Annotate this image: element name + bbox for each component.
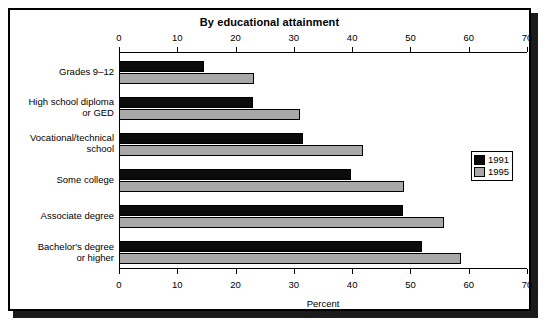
category-label: Vocational/technical school [14,132,114,154]
top-tick-label: 70 [522,32,533,43]
bar-1991-2 [119,133,303,144]
top-tick-label: 10 [172,32,183,43]
bar-1995-1 [119,109,300,120]
top-tick-mark [236,47,237,52]
top-tick-mark [469,47,470,52]
plot-area: 010203040506070 010203040506070 Grades 9… [119,52,527,269]
bottom-tick-mark [177,269,178,274]
category-label: Some college [14,174,114,185]
bar-1991-4 [119,205,403,216]
top-tick-mark [294,47,295,52]
bottom-tick-label: 40 [347,279,358,290]
bar-1995-3 [119,181,404,192]
legend-label-1991: 1991 [488,155,509,165]
bottom-tick-mark [236,269,237,274]
bar-1991-1 [119,97,253,108]
bottom-tick-mark [410,269,411,274]
chart-panel: By educational attainment 01020304050607… [8,8,531,311]
top-tick-mark [177,47,178,52]
legend-swatch-icon-1991 [474,155,485,165]
top-tick-mark [410,47,411,52]
bottom-tick-label: 60 [463,279,474,290]
top-tick-label: 0 [116,32,121,43]
top-tick-label: 60 [463,32,474,43]
category-label-wrap: Some college [14,174,114,185]
bottom-tick-mark [352,269,353,274]
bottom-tick-mark [294,269,295,274]
category-label: High school diploma or GED [14,96,114,118]
bottom-tick-label: 30 [289,279,300,290]
bottom-tick-mark [527,269,528,274]
bar-1991-3 [119,169,351,180]
category-label: Associate degree [14,210,114,221]
category-label: Grades 9–12 [14,66,114,77]
top-tick-mark [119,47,120,52]
category-label-wrap: Vocational/technical school [14,132,114,154]
category-label-wrap: Grades 9–12 [14,66,114,77]
bottom-tick-mark [469,269,470,274]
value-axis-baseline [119,52,120,269]
bottom-tick-label: 50 [405,279,416,290]
chart-title: By educational attainment [10,16,529,28]
bottom-tick-label: 20 [230,279,241,290]
chart-legend: 1991 1995 [471,151,513,181]
bottom-tick-label: 0 [116,279,121,290]
category-label-wrap: Associate degree [14,210,114,221]
bar-1995-5 [119,253,461,264]
bottom-tick-mark [119,269,120,274]
legend-entry-1995: 1995 [474,166,509,178]
category-label-wrap: Bachelor's degree or higher [14,241,114,263]
bar-1995-4 [119,217,444,228]
x-axis-caption: Percent [119,298,527,309]
category-label-wrap: High school diploma or GED [14,96,114,118]
top-tick-label: 20 [230,32,241,43]
category-label: Bachelor's degree or higher [14,241,114,263]
top-tick-label: 40 [347,32,358,43]
top-tick-mark [527,47,528,52]
bottom-axis-line [119,268,527,269]
bar-1995-0 [119,73,254,84]
bar-1995-2 [119,145,363,156]
bar-1991-0 [119,61,204,72]
top-tick-mark [352,47,353,52]
top-axis-line [119,52,527,53]
bottom-tick-label: 10 [172,279,183,290]
top-tick-label: 50 [405,32,416,43]
legend-swatch-icon-1995 [474,167,485,177]
bottom-tick-label: 70 [522,279,533,290]
legend-entry-1991: 1991 [474,154,509,166]
bar-1991-5 [119,241,422,252]
figure-root: By educational attainment 01020304050607… [0,0,547,327]
legend-label-1995: 1995 [488,167,509,177]
top-tick-label: 30 [289,32,300,43]
